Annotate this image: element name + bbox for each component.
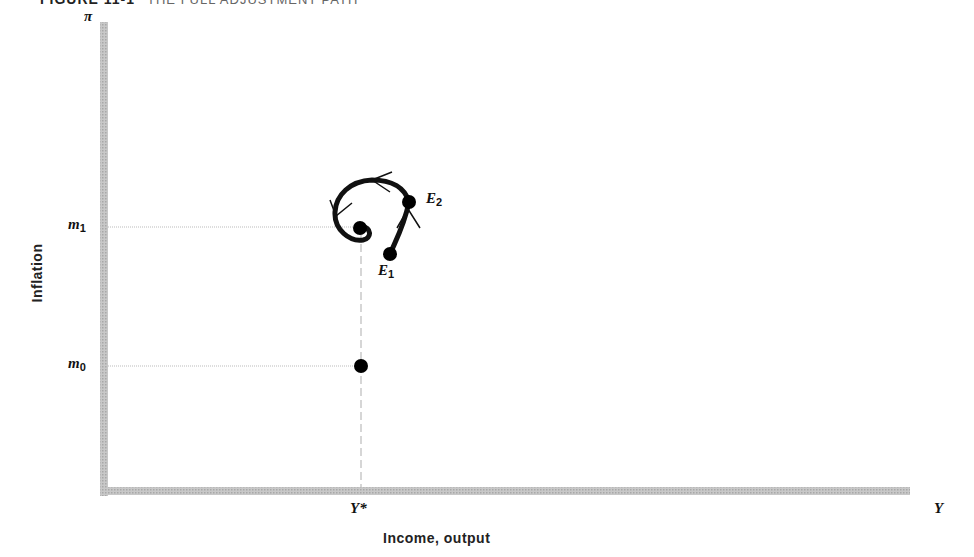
m0-tick-label: m0	[68, 355, 86, 373]
ystar-tick-label: Y*	[350, 500, 367, 517]
y-axis-end-label: π	[84, 8, 92, 25]
x-axis-end-label: Y	[934, 500, 943, 517]
chart-canvas	[0, 0, 974, 557]
y-axis-title: Inflation	[29, 238, 45, 308]
y-axis	[100, 22, 108, 496]
x-axis-title: Income, output	[383, 530, 490, 546]
point-final	[353, 221, 367, 235]
point-e2	[402, 195, 416, 209]
point-e1	[383, 247, 397, 261]
x-axis	[100, 487, 910, 495]
m1-tick-label: m1	[68, 216, 86, 234]
e1-label: E1	[378, 262, 394, 280]
point-initial	[354, 359, 368, 373]
adjustment-path	[335, 180, 409, 254]
e2-label: E2	[426, 190, 442, 208]
